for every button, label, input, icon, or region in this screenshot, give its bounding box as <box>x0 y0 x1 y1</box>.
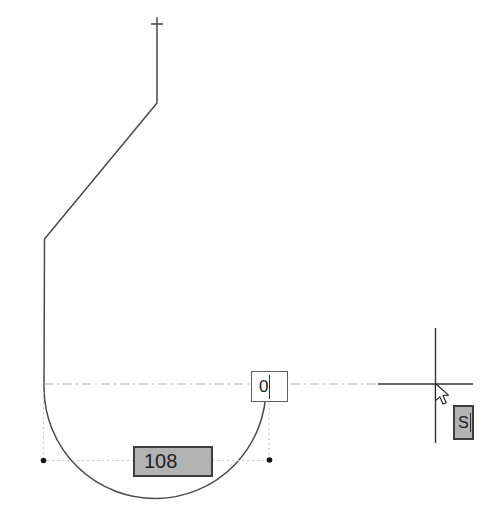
hint-value: S <box>458 414 469 432</box>
drawing-layer <box>0 0 500 531</box>
endpoint-handle-left[interactable] <box>41 458 47 464</box>
text-caret <box>269 375 270 399</box>
profile-path[interactable] <box>44 18 266 498</box>
hint-caret <box>470 413 471 432</box>
dimension-input[interactable]: 108 <box>133 446 213 477</box>
endpoint-handle-right[interactable] <box>267 457 273 463</box>
cad-canvas: 108 0 S <box>0 0 500 531</box>
hint-input[interactable]: S <box>453 405 474 440</box>
arrow-cursor-icon <box>436 384 449 405</box>
dimension-value: 108 <box>144 450 177 473</box>
length-value: 0 <box>259 377 268 397</box>
length-input[interactable]: 0 <box>251 371 288 402</box>
